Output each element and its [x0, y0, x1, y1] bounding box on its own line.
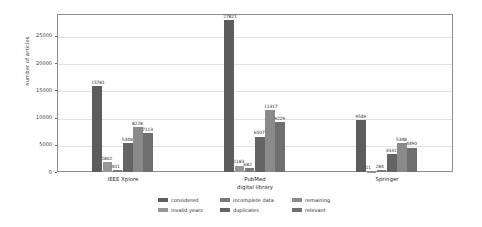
bar-value-label: 1802 — [101, 157, 112, 161]
legend-swatch — [292, 198, 302, 203]
gridline — [58, 91, 452, 92]
bar-value-label: 4490 — [406, 142, 417, 146]
bar-value-label: 6507 — [254, 131, 265, 135]
x-tick-label-line: PubMed — [210, 176, 300, 184]
bar — [407, 148, 417, 172]
bar — [275, 122, 285, 172]
x-tick-label-line: Springer — [342, 176, 432, 184]
x-tick-label: Springer — [342, 176, 432, 184]
bar-value-label: 5348 — [396, 138, 407, 142]
chart-legend: consideredincomplete dataremaininginvali… — [158, 195, 358, 215]
legend-swatch — [220, 208, 230, 213]
legend-entry[interactable]: invalid years — [158, 205, 220, 215]
legend-swatch — [220, 198, 230, 203]
bar-value-label: 9549 — [355, 115, 366, 119]
bar — [397, 143, 407, 172]
bar-value-label: 27821 — [223, 15, 236, 19]
x-tick-label-line: IEEE Xplore — [78, 176, 168, 184]
chart-figure: number of articles 050001000015000200002… — [0, 0, 482, 227]
bar-value-label: 5348 — [122, 138, 133, 142]
bar — [377, 170, 387, 172]
bar — [133, 127, 143, 172]
bar-value-label: 7113 — [142, 128, 153, 132]
bar-value-label: 1183 — [233, 160, 244, 164]
legend-swatch — [292, 208, 302, 213]
bar — [143, 133, 153, 172]
y-tick-label: 5000 — [24, 142, 52, 147]
gridline — [58, 64, 452, 65]
bar-value-label: 401 — [112, 165, 120, 169]
bar — [113, 170, 123, 172]
y-tick-label: 0 — [24, 170, 52, 175]
x-tick-label: IEEE Xplore — [78, 176, 168, 184]
gridline — [58, 119, 452, 120]
y-tick-mark — [55, 36, 58, 37]
y-tick-mark — [55, 118, 58, 119]
y-tick-label: 15000 — [24, 88, 52, 93]
legend-entry[interactable]: incomplete data — [220, 195, 292, 205]
legend-label: relevant — [305, 208, 326, 213]
bar-value-label: 11317 — [264, 105, 277, 109]
bar-value-label: 8228 — [132, 122, 143, 126]
legend-label: invalid years — [171, 208, 203, 213]
legend-label: incomplete data — [233, 198, 274, 203]
legend-swatch — [158, 198, 168, 203]
bar — [387, 154, 397, 172]
bar — [367, 172, 377, 173]
legend-label: considered — [171, 198, 198, 203]
x-tick-label: PubMeddigital library — [210, 176, 300, 191]
legend-entry[interactable]: duplicates — [220, 205, 292, 215]
bar — [356, 120, 366, 172]
bar-value-label: 15781 — [91, 81, 104, 85]
y-tick-mark — [55, 63, 58, 64]
legend-entry[interactable]: considered — [158, 195, 220, 205]
bar-value-label: 9229 — [274, 117, 285, 121]
bar-value-label: 11 — [365, 166, 370, 170]
y-tick-label: 10000 — [24, 115, 52, 120]
legend-swatch — [158, 208, 168, 213]
x-tick-label-line: digital library — [210, 184, 300, 192]
legend-entry[interactable]: remaining — [292, 195, 352, 205]
legend-entry[interactable]: relevant — [292, 205, 352, 215]
y-tick-mark — [55, 145, 58, 146]
y-tick-label: 20000 — [24, 61, 52, 66]
bar — [224, 20, 234, 172]
gridline — [58, 37, 452, 38]
bar — [255, 137, 265, 172]
bar — [123, 143, 133, 172]
y-tick-mark — [55, 172, 58, 173]
bar-value-label: 682 — [244, 163, 252, 167]
bar-value-label: 3331 — [386, 149, 397, 153]
y-tick-label: 25000 — [24, 33, 52, 38]
y-tick-mark — [55, 90, 58, 91]
bar — [245, 168, 255, 172]
legend-label: duplicates — [233, 208, 259, 213]
bar-value-label: 284 — [376, 165, 384, 169]
legend-label: remaining — [305, 198, 330, 203]
